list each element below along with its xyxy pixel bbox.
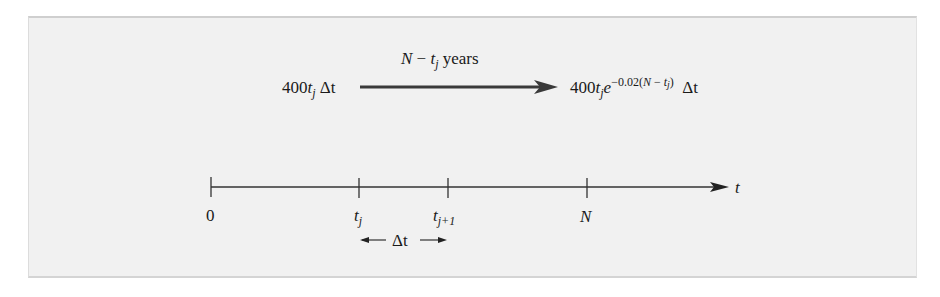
arrow-label: N − tj years xyxy=(401,50,479,67)
tick-text: N xyxy=(580,207,591,226)
exp-N: N xyxy=(643,75,651,89)
minus-sign: − xyxy=(412,49,430,68)
coefficient: 400 xyxy=(570,78,596,97)
exp-close: ) xyxy=(670,75,674,89)
exp-prefix: −0.02( xyxy=(611,75,643,89)
axis-label-t: t xyxy=(735,179,740,196)
interval-text: Δt xyxy=(392,231,408,250)
exponent: −0.02(N − tj) xyxy=(611,75,674,89)
time-axis xyxy=(211,182,729,192)
label-years: years xyxy=(439,49,479,68)
subscript: j xyxy=(312,86,315,100)
interval-label: Δt xyxy=(392,232,408,249)
label-N: N xyxy=(401,49,412,68)
axis-label-text: t xyxy=(735,178,740,197)
delta-t: Δt xyxy=(320,78,336,97)
start-amount-expression: 400tj Δt xyxy=(282,79,335,96)
coefficient: 400 xyxy=(282,78,308,97)
tick-subscript: j+1 xyxy=(438,214,455,228)
tick-label-zero: 0 xyxy=(206,207,215,224)
tick-label-tj1: tj+1 xyxy=(433,207,455,224)
tick-label-N: N xyxy=(580,208,591,225)
delta-t: Δt xyxy=(682,78,698,97)
transfer-arrow xyxy=(360,80,558,94)
tick-subscript: j xyxy=(359,214,362,228)
end-amount-expression: 400tje−0.02(N − tj) Δt xyxy=(570,79,698,96)
tick-text: 0 xyxy=(206,206,215,225)
diagram-lines xyxy=(0,0,940,297)
exp-base: e xyxy=(604,78,612,97)
tick-label-tj: tj xyxy=(354,207,362,224)
exp-minus: − xyxy=(651,75,664,89)
